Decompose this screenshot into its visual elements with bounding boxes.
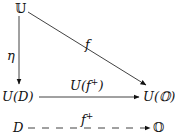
node-D: D — [13, 121, 23, 134]
label-f: f — [85, 38, 90, 51]
node-O: 𝕆 — [153, 121, 164, 134]
label-U-f-plus-base: U(f — [70, 78, 91, 93]
label-f-plus-sup: + — [86, 111, 94, 121]
label-U-f-plus-sup: + — [91, 77, 99, 87]
label-U-f-plus-close: ) — [98, 78, 103, 93]
label-U-f-plus: U(f+) — [70, 79, 103, 92]
node-U-top: 𝕌 — [15, 2, 26, 15]
label-eta: η — [7, 49, 15, 62]
node-U-O: U(𝕆) — [143, 90, 175, 103]
node-U-D: U(D) — [2, 90, 34, 103]
label-f-plus: f+ — [81, 113, 93, 126]
